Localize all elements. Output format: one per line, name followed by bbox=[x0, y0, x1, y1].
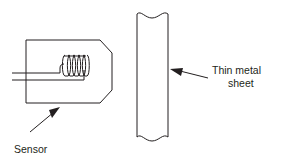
diagram-canvas: Thin metal sheet Sensor bbox=[0, 0, 283, 164]
sensor-leader-line bbox=[30, 112, 54, 132]
sheet-label-line2: sheet bbox=[228, 77, 254, 89]
sheet-leader-arrowhead bbox=[170, 68, 183, 76]
sheet-label-line1: Thin metal bbox=[212, 64, 261, 76]
sensor-housing bbox=[26, 40, 112, 103]
thin-metal-sheet bbox=[137, 13, 168, 141]
sheet-leader-line bbox=[180, 71, 208, 78]
sensor-leader-arrowhead bbox=[49, 107, 60, 118]
sensor-label: Sensor bbox=[14, 143, 48, 155]
sensor-metal-sheet-diagram: Thin metal sheet Sensor bbox=[0, 0, 283, 164]
